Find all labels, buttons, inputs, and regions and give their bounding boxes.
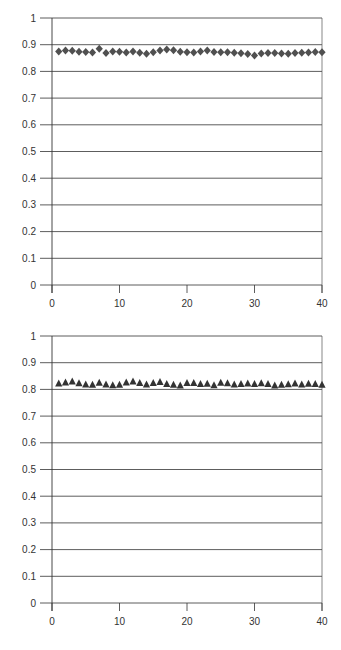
diamond-marker bbox=[177, 48, 184, 56]
y-tick-label: 1 bbox=[30, 331, 36, 342]
triangle-marker bbox=[62, 378, 69, 385]
triangle-marker bbox=[237, 380, 244, 387]
triangle-marker bbox=[224, 379, 231, 386]
triangle-marker bbox=[264, 380, 271, 387]
diamond-marker bbox=[278, 50, 285, 58]
y-tick-label: 1 bbox=[30, 13, 36, 24]
diamond-marker bbox=[62, 47, 69, 55]
x-tick-label: 0 bbox=[49, 616, 55, 627]
triangle-marker bbox=[244, 380, 251, 387]
diamond-marker bbox=[75, 48, 82, 56]
diamond-marker bbox=[312, 48, 319, 56]
y-tick-label: 0.3 bbox=[22, 517, 36, 528]
y-tick-label: 0.7 bbox=[22, 93, 36, 104]
triangle-marker bbox=[177, 381, 184, 388]
y-tick-label: 0.7 bbox=[22, 411, 36, 422]
x-tick-label: 30 bbox=[249, 616, 261, 627]
triangle-marker bbox=[298, 381, 305, 388]
diamond-marker bbox=[204, 47, 211, 55]
triangle-marker bbox=[190, 379, 197, 386]
triangle-marker bbox=[123, 378, 130, 385]
triangle-marker bbox=[55, 380, 62, 387]
diamond-marker bbox=[136, 49, 143, 57]
diamond-marker bbox=[163, 46, 170, 54]
y-tick-label: 0 bbox=[30, 280, 36, 291]
diamond-marker bbox=[291, 49, 298, 57]
diamond-marker bbox=[129, 47, 136, 55]
x-tick-label: 10 bbox=[114, 298, 126, 309]
diamond-marker bbox=[298, 49, 305, 57]
diamond-marker bbox=[251, 51, 258, 59]
diamond-marker bbox=[102, 49, 109, 57]
triangle-marker bbox=[69, 377, 76, 384]
diamond-marker bbox=[190, 48, 197, 56]
triangle-marker bbox=[89, 381, 96, 388]
chart-bottom-plot: 00.10.20.30.40.50.60.70.80.91010203040 bbox=[0, 318, 341, 638]
triangle-marker bbox=[170, 381, 177, 388]
diamond-marker bbox=[89, 48, 96, 56]
triangle-marker bbox=[318, 381, 325, 388]
y-tick-label: 0.6 bbox=[22, 119, 36, 130]
x-tick-label: 10 bbox=[114, 616, 126, 627]
diamond-marker bbox=[150, 48, 157, 56]
y-tick-label: 0 bbox=[30, 598, 36, 609]
y-tick-label: 0.8 bbox=[22, 384, 36, 395]
triangle-marker bbox=[129, 377, 136, 384]
triangle-marker bbox=[210, 381, 217, 388]
x-tick-label: 30 bbox=[249, 298, 261, 309]
triangle-marker bbox=[136, 379, 143, 386]
triangle-marker bbox=[75, 379, 82, 386]
y-tick-label: 0.9 bbox=[22, 357, 36, 368]
triangle-marker bbox=[143, 381, 150, 388]
diamond-marker bbox=[82, 48, 89, 56]
diamond-marker bbox=[237, 49, 244, 57]
chart-top: 00.10.20.30.40.50.60.70.80.91010203040 bbox=[0, 0, 341, 320]
triangle-marker bbox=[231, 381, 238, 388]
diamond-marker bbox=[217, 48, 224, 56]
x-tick-label: 20 bbox=[181, 298, 193, 309]
y-tick-label: 0.4 bbox=[22, 173, 36, 184]
diamond-marker bbox=[96, 45, 103, 53]
x-tick-label: 20 bbox=[181, 616, 193, 627]
triangle-marker bbox=[96, 379, 103, 386]
diamond-marker bbox=[69, 47, 76, 55]
y-tick-label: 0.5 bbox=[22, 146, 36, 157]
triangle-marker bbox=[278, 381, 285, 388]
y-tick-label: 0.2 bbox=[22, 544, 36, 555]
diamond-marker bbox=[258, 50, 265, 58]
y-tick-label: 0.1 bbox=[22, 571, 36, 582]
diamond-marker bbox=[264, 49, 271, 57]
triangle-marker bbox=[258, 379, 265, 386]
diamond-marker bbox=[231, 49, 238, 57]
x-tick-label: 0 bbox=[49, 298, 55, 309]
diamond-marker bbox=[244, 50, 251, 58]
chart-top-plot: 00.10.20.30.40.50.60.70.80.91010203040 bbox=[0, 0, 341, 320]
triangle-marker bbox=[102, 381, 109, 388]
triangle-marker bbox=[305, 380, 312, 387]
y-tick-label: 0.4 bbox=[22, 491, 36, 502]
y-tick-label: 0.5 bbox=[22, 464, 36, 475]
triangle-marker bbox=[156, 378, 163, 385]
diamond-marker bbox=[305, 48, 312, 56]
diamond-marker bbox=[170, 46, 177, 54]
triangle-marker bbox=[285, 380, 292, 387]
diamond-marker bbox=[318, 48, 325, 56]
triangle-marker bbox=[291, 380, 298, 387]
y-tick-label: 0.6 bbox=[22, 437, 36, 448]
triangle-marker bbox=[312, 380, 319, 387]
diamond-marker bbox=[55, 47, 62, 55]
chart-bottom: 00.10.20.30.40.50.60.70.80.91010203040 bbox=[0, 318, 341, 638]
diamond-marker bbox=[143, 50, 150, 58]
triangle-marker bbox=[183, 379, 190, 386]
diamond-marker bbox=[156, 47, 163, 55]
triangle-marker bbox=[217, 379, 224, 386]
diamond-marker bbox=[271, 49, 278, 57]
triangle-marker bbox=[271, 381, 278, 388]
y-tick-label: 0.2 bbox=[22, 226, 36, 237]
x-tick-label: 40 bbox=[316, 298, 328, 309]
triangle-marker bbox=[82, 381, 89, 388]
x-tick-label: 40 bbox=[316, 616, 328, 627]
triangle-marker bbox=[197, 380, 204, 387]
triangle-marker bbox=[251, 380, 258, 387]
diamond-marker bbox=[210, 48, 217, 56]
